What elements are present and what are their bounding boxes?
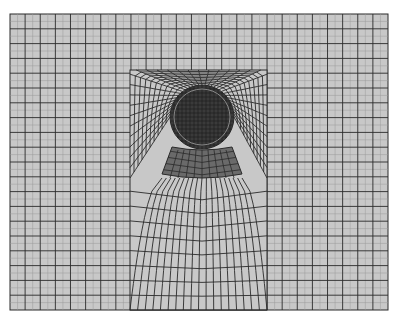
- fe-mesh: [0, 0, 397, 323]
- mesh-figure: [0, 0, 397, 323]
